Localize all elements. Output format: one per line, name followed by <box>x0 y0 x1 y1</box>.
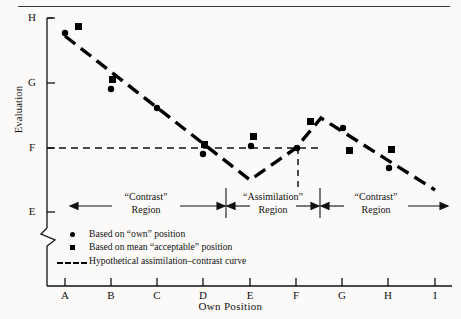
y-ticks <box>47 18 55 212</box>
legend-label: Hypothetical assimilation–contrast curve <box>89 255 246 266</box>
y-axis <box>41 18 55 286</box>
data-point-circle <box>386 165 392 171</box>
data-point-square <box>201 141 208 148</box>
legend-item-mean-acceptable: Based on mean “acceptable” position <box>55 241 232 252</box>
y-tick-label-F: F <box>24 141 40 153</box>
region-label-text: “Contrast” <box>336 191 416 204</box>
legend-label: Based on “own” position <box>89 228 185 239</box>
data-point-circle <box>248 143 254 149</box>
data-point-circle <box>340 125 346 131</box>
region-annotation-contrast-left: “Contrast” Region <box>106 191 186 216</box>
y-tick-label-H: H <box>24 11 40 23</box>
x-axis <box>47 278 452 286</box>
region-label-sub: Region <box>106 204 186 217</box>
region-label-text: “Assimilation” <box>233 191 313 204</box>
data-point-square <box>250 133 257 140</box>
legend-label: Based on mean “acceptable” position <box>89 241 232 252</box>
data-point-circle <box>154 105 160 111</box>
data-point-square <box>109 76 116 83</box>
x-axis-title: Own Position <box>0 300 461 312</box>
data-point-circle <box>294 145 300 151</box>
legend-item-own-position: Based on “own” position <box>55 228 185 239</box>
y-tick-label-G: G <box>24 76 40 88</box>
y-axis-title: Evaluation <box>13 70 24 150</box>
region-annotation-contrast-right: “Contrast” Region <box>336 191 416 216</box>
legend-square-marker-icon <box>55 241 89 252</box>
legend-item-hypothetical-curve: Hypothetical assimilation–contrast curve <box>55 255 246 266</box>
legend-circle-marker-icon <box>55 228 89 239</box>
figure-container: H G F E A B C D E F G H I Evaluation Own… <box>0 0 461 319</box>
data-point-circle <box>108 86 114 92</box>
region-label-sub: Region <box>336 204 416 217</box>
data-point-square <box>388 146 395 153</box>
chart-canvas <box>0 0 461 319</box>
region-label-sub: Region <box>233 204 313 217</box>
data-point-circle <box>200 151 206 157</box>
series-own-position-points <box>62 30 392 171</box>
region-annotation-assimilation: “Assimilation” Region <box>233 191 313 216</box>
data-point-square <box>346 147 353 154</box>
data-point-circle <box>62 30 68 36</box>
data-point-square <box>75 23 82 30</box>
region-label-text: “Contrast” <box>106 191 186 204</box>
legend-dashed-line-icon <box>55 255 89 266</box>
y-tick-label-E: E <box>24 205 40 217</box>
data-point-square <box>307 118 314 125</box>
hypothetical-curve <box>65 36 435 190</box>
